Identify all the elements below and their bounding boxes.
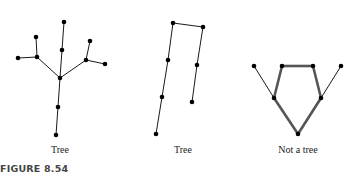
graph-edge	[58, 78, 60, 107]
graph-vertex	[16, 56, 21, 61]
graph-vertex	[60, 48, 65, 53]
graph-edge	[86, 60, 105, 64]
graph-vertex	[195, 63, 200, 68]
graph-tree-2	[154, 21, 206, 137]
graph-edge	[56, 107, 58, 135]
figure-canvas	[0, 0, 361, 184]
graph-edge	[60, 60, 86, 78]
graph-vertex	[62, 20, 67, 25]
graph-vertex	[252, 64, 257, 69]
graph-vertex	[171, 21, 176, 26]
graph-edge	[62, 22, 64, 50]
graph-edge	[173, 23, 203, 27]
graph-vertex	[154, 132, 159, 137]
graph-vertex	[160, 95, 165, 100]
graph-vertex	[190, 100, 195, 105]
graph-vertex	[56, 105, 61, 110]
graph-edge	[192, 65, 197, 102]
caption-not-a-tree: Not a tree	[258, 144, 338, 155]
graph-edge	[197, 27, 203, 65]
cycle-edge	[313, 66, 321, 98]
graph-vertex	[272, 96, 277, 101]
graph-tree-1	[16, 20, 108, 138]
graph-vertex	[35, 55, 40, 60]
graph-vertex	[54, 133, 59, 138]
graph-vertex	[280, 64, 285, 69]
cycle-edge	[274, 98, 298, 134]
graph-edge	[156, 97, 162, 134]
graph-edge	[254, 66, 274, 98]
caption-tree-2: Tree	[143, 144, 223, 155]
graph-edge	[162, 60, 168, 97]
graph-edge	[321, 66, 341, 98]
graph-edge	[168, 23, 173, 60]
graph-vertex	[339, 64, 344, 69]
graph-edge	[60, 50, 62, 78]
graph-edge	[18, 57, 37, 58]
figure-label: FIGURE 8.54	[0, 163, 68, 174]
caption-tree-1: Tree	[20, 144, 100, 155]
graph-vertex	[319, 96, 324, 101]
graph-edge	[37, 57, 60, 78]
cycle-edge	[274, 66, 282, 98]
graph-edge	[36, 37, 37, 57]
graph-not-a-tree	[252, 64, 344, 137]
graph-vertex	[296, 132, 301, 137]
graph-vertex	[311, 64, 316, 69]
graph-vertex	[34, 35, 39, 40]
graph-vertex	[58, 76, 63, 81]
graph-edge	[86, 41, 90, 60]
graph-vertex	[84, 58, 89, 63]
graph-vertex	[166, 58, 171, 63]
cycle-edge	[298, 98, 321, 134]
graph-vertex	[88, 39, 93, 44]
graph-vertex	[201, 25, 206, 30]
graph-vertex	[103, 62, 108, 67]
